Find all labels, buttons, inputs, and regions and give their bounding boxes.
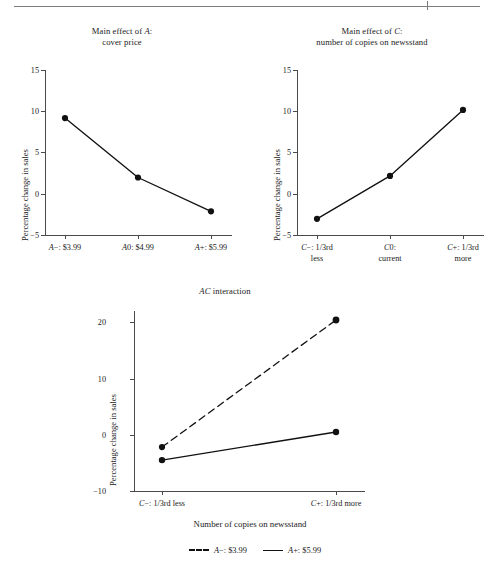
x-tick-label-c-3-line2: more	[447, 254, 479, 265]
plot-area-a: 15 10 5 0 −5 A−: $3.99 A0: $4.99 A+: $5.…	[45, 70, 231, 235]
point-a-3	[208, 208, 214, 214]
y-tick-label-a-15: 15	[17, 66, 39, 75]
chart-title-ac: AC interaction	[60, 286, 390, 297]
chart-title-a-line2: cover price	[102, 37, 142, 47]
legend-dashed-line-icon	[189, 549, 209, 551]
x-tick-label-a-1: A−: $3.99	[49, 243, 81, 254]
x-tick-label-ac-2: C+: 1/3rd more	[311, 499, 362, 510]
figure-legend: A−: $3.99 A+: $5.99	[140, 543, 370, 557]
y-tick-label-a-0: 0	[17, 190, 39, 199]
y-tick-label-c-15: 15	[269, 66, 291, 75]
y-tick-label-ac-20: 20	[82, 318, 106, 327]
point-c-1	[314, 216, 320, 222]
point-ac-aplus-2	[333, 429, 339, 435]
y-tick-label-c-5: 5	[269, 148, 291, 157]
line-c-main	[317, 110, 463, 219]
chart-title-ac-text: AC interaction	[199, 286, 250, 296]
chart-title-a: Main effect of A: cover price	[0, 26, 244, 47]
y-tick-label-ac-0: 0	[82, 430, 106, 439]
y-tick-label-c-m5: −5	[269, 231, 291, 240]
point-c-3	[460, 107, 466, 113]
point-ac-aminus-1	[159, 444, 165, 450]
x-tick-label-a-2: A0: $4.99	[122, 243, 154, 254]
line-a-main	[65, 118, 211, 211]
legend-label-a-minus: A−: $3.99	[214, 546, 247, 555]
point-ac-aplus-1	[159, 457, 165, 463]
x-tick-label-c-2-line2: current	[378, 254, 401, 265]
y-tick-label-c-10: 10	[269, 107, 291, 116]
line-ac-a-plus	[162, 432, 336, 460]
point-c-2	[387, 173, 393, 179]
y-tick-label-a-5: 5	[17, 148, 39, 157]
legend-solid-line-icon	[263, 550, 283, 551]
chart-title-c-line1: Main effect of C:	[342, 26, 403, 36]
x-tick-label-c-1-line1: C−: 1/3rd	[301, 243, 333, 254]
page-header-rule	[14, 6, 480, 7]
y-tick-label-a-m5: −5	[17, 231, 39, 240]
x-tick-label-c-2: C0: current	[378, 243, 401, 264]
series-c	[297, 70, 487, 240]
y-tick-label-c-0: 0	[269, 190, 291, 199]
point-ac-aminus-2	[333, 317, 340, 324]
y-tick-label-ac-10: 10	[82, 374, 106, 383]
series-ac	[134, 311, 369, 496]
legend-item-a-minus: A−: $3.99	[189, 546, 247, 555]
chart-title-c-line2: number of copies on newsstand	[316, 37, 427, 47]
legend-label-a-plus-rest: +: $5.99	[293, 546, 321, 555]
point-a-1	[62, 115, 68, 121]
chart-title-c: Main effect of C: number of copies on ne…	[250, 26, 494, 47]
x-tick-label-c-2-line1: C0:	[378, 243, 401, 254]
x-tick-label-c-3-line1: C+: 1/3rd	[447, 243, 479, 254]
line-ac-a-minus	[162, 320, 336, 447]
x-tick-label-c-1-line2: less	[301, 254, 333, 265]
legend-label-a-minus-rest: −: $3.99	[219, 546, 247, 555]
plot-area-ac: 20 10 0 −10 C−: 1/3rd less C+: 1/3rd mor…	[134, 311, 364, 491]
chart-ac-interaction: AC interaction Percentage change in sale…	[60, 286, 440, 566]
y-axis-title-ac: Percentage change in sales	[108, 394, 118, 486]
x-tick-label-a-3: A+: $5.99	[195, 243, 227, 254]
chart-title-a-line1: Main effect of A:	[92, 26, 153, 36]
point-a-2	[135, 174, 141, 180]
chart-main-effect-a: Main effect of A: cover price Percentage…	[0, 26, 244, 276]
x-tick-label-c-3: C+: 1/3rd more	[447, 243, 479, 264]
x-tick-label-ac-1: C−: 1/3rd less	[139, 499, 185, 510]
figure-page: Main effect of A: cover price Percentage…	[0, 0, 494, 572]
page-header-tick	[427, 1, 428, 10]
legend-label-a-plus: A+: $5.99	[288, 546, 321, 555]
series-a	[45, 70, 235, 240]
plot-area-c: 15 10 5 0 −5 C−: 1/3rd less C0: current …	[297, 70, 483, 235]
x-tick-label-c-1: C−: 1/3rd less	[301, 243, 333, 264]
y-tick-label-a-10: 10	[17, 107, 39, 116]
x-axis-title-ac: Number of copies on newsstand	[134, 519, 366, 529]
chart-main-effect-c: Main effect of C: number of copies on ne…	[250, 26, 494, 276]
legend-item-a-plus: A+: $5.99	[263, 546, 321, 555]
y-tick-label-ac-m10: −10	[82, 487, 106, 496]
